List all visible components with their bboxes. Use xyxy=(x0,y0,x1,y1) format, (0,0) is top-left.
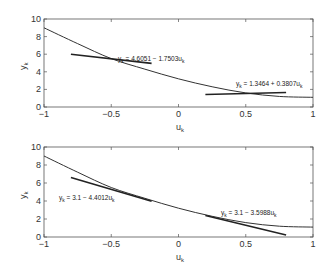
x-tick-label: −0.5 xyxy=(102,239,120,249)
x-tick-label: 1 xyxy=(310,239,315,249)
y-tick-label: 0 xyxy=(36,232,41,242)
x-tick-label: 1 xyxy=(310,109,315,119)
y-tick-label: 2 xyxy=(36,214,41,224)
plot-frame xyxy=(44,19,313,107)
top-eq1-label: yk = 4.6051 − 1.7503uk xyxy=(118,55,185,64)
x-tick-label: 0.5 xyxy=(239,239,252,249)
linearization-line xyxy=(205,92,286,94)
y-tick-label: 4 xyxy=(36,67,41,77)
bottom-xlabel: uk xyxy=(176,252,185,263)
x-tick-label: 0 xyxy=(176,109,181,119)
nonlinear-curve xyxy=(44,156,313,227)
y-tick-label: 0 xyxy=(36,102,41,112)
top-plot: −1−0.500.510246810 xyxy=(31,14,316,119)
top-xlabel: uk xyxy=(176,122,185,133)
bottom-eq1-label: yk = 3.1 − 4.4012uk xyxy=(59,194,115,203)
y-tick-label: 8 xyxy=(36,160,41,170)
plot-frame xyxy=(44,147,313,237)
y-tick-label: 4 xyxy=(36,196,41,206)
y-tick-label: 10 xyxy=(31,142,41,152)
y-tick-label: 6 xyxy=(36,178,41,188)
x-tick-label: −0.5 xyxy=(102,109,120,119)
top-ylabel: yk xyxy=(18,62,29,71)
chart-figure: −1−0.500.510246810 −1−0.500.510246810 yk… xyxy=(0,0,331,274)
bottom-eq2-label: yk = 3.1 − 3.5988uk xyxy=(221,209,277,218)
x-tick-label: 0 xyxy=(176,239,181,249)
y-tick-label: 2 xyxy=(36,84,41,94)
y-tick-label: 10 xyxy=(31,14,41,24)
y-tick-label: 6 xyxy=(36,49,41,59)
x-tick-label: 0.5 xyxy=(239,109,252,119)
linearization-line xyxy=(205,216,286,235)
bottom-ylabel: yk xyxy=(18,191,29,200)
top-eq2-label: yk = 1.3464 + 0.3807uk xyxy=(236,80,303,89)
y-tick-label: 8 xyxy=(36,32,41,42)
